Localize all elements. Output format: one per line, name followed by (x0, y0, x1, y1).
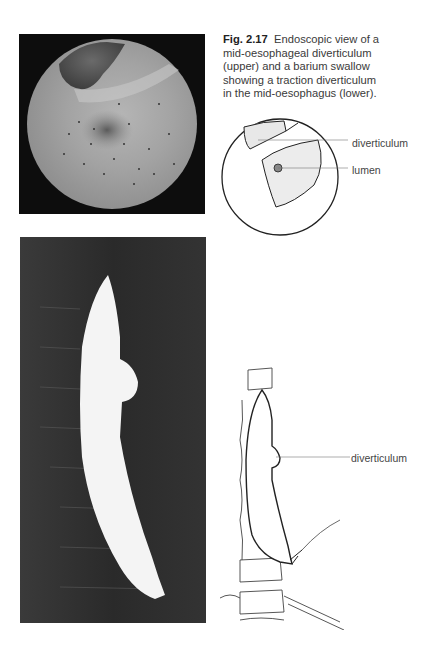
figure-number: Fig. 2.17 (223, 33, 268, 45)
endoscopic-photo (19, 34, 205, 214)
caption-line-5: in the mid-oesophagus (lower). (223, 87, 377, 99)
lower-diverticulum-label: diverticulum (351, 452, 407, 464)
lumen-label: lumen (352, 164, 381, 176)
caption-line-3: (upper) and a barium swallow (223, 60, 370, 72)
figure-caption: Fig. 2.17 Endoscopic view of a mid-oesop… (223, 33, 428, 101)
caption-line-2: mid-oesophageal diverticulum (223, 47, 372, 59)
caption-line-4: showing a traction diverticulum (223, 74, 376, 86)
upper-diverticulum-label: diverticulum (352, 137, 408, 149)
xray-diagram (220, 360, 360, 630)
xray-features (20, 237, 206, 623)
caption-line-1: Endoscopic view of a (274, 33, 379, 45)
endoscopic-features (19, 34, 205, 214)
barium-swallow-xray (20, 237, 206, 623)
endoscopic-diagram (218, 115, 348, 240)
